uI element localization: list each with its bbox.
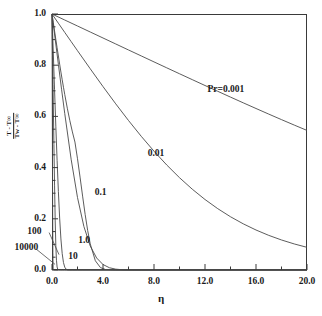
y-tick-label: 0.0 bbox=[12, 264, 46, 274]
y-tick-label: 0.4 bbox=[12, 162, 46, 172]
x-tick-label: 16.0 bbox=[236, 276, 276, 286]
curve-label-Pr-1-0: 1.0 bbox=[78, 235, 90, 245]
curve-label-Pr-0-01: 0.01 bbox=[148, 148, 165, 158]
x-tick-label: 12.0 bbox=[185, 276, 225, 286]
y-tick-label: 0.8 bbox=[12, 59, 46, 69]
leader-line-Pr-100 bbox=[49, 233, 59, 255]
y-tick-label: 1.0 bbox=[12, 8, 46, 18]
x-tick-label: 4.0 bbox=[83, 276, 123, 286]
tick-layer bbox=[0, 0, 322, 316]
curve-label-Pr-10000: 10000 bbox=[14, 242, 38, 252]
x-tick-label: 20.0 bbox=[287, 276, 322, 286]
curve-label-Pr-0-1: 0.1 bbox=[95, 187, 107, 197]
x-tick-label: 0.0 bbox=[32, 276, 72, 286]
curve-label-Pr-10: 10 bbox=[68, 251, 78, 261]
y-tick-label: 0.2 bbox=[12, 213, 46, 223]
x-axis-title: η bbox=[0, 292, 322, 304]
x-tick-label: 8.0 bbox=[134, 276, 174, 286]
curve-label-Pr-0-001: Pr=0.001 bbox=[208, 84, 245, 94]
y-axis-denominator: Tw - T∞ bbox=[15, 113, 22, 140]
y-axis-title: T - T∞ Tw - T∞ bbox=[6, 111, 22, 141]
temperature-profile-chart: 0.00.20.40.60.81.0 0.04.08.012.016.020.0… bbox=[0, 0, 322, 316]
curve-label-Pr-100: 100 bbox=[27, 226, 41, 236]
